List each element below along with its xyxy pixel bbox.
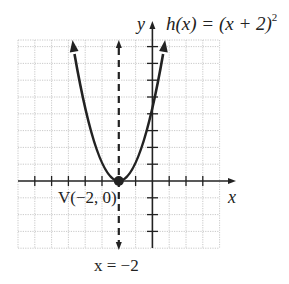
down-arrow-icon xyxy=(116,242,122,250)
vertex-label: V(−2, 0) xyxy=(58,188,117,208)
function-label: h(x) = (x + 2)2 xyxy=(166,13,277,35)
vertex-point xyxy=(114,176,124,186)
function-label-text: h(x) = (x + 2) xyxy=(166,13,272,34)
y-axis-label: y xyxy=(137,14,145,35)
y-axis-arrow-icon xyxy=(149,21,155,29)
axis-of-symmetry-label: x = −2 xyxy=(94,256,139,276)
y-axis xyxy=(147,21,158,248)
up-arrow-icon xyxy=(116,40,122,48)
function-exponent: 2 xyxy=(272,11,278,23)
graph xyxy=(0,0,289,284)
x-axis-label: x xyxy=(228,187,236,208)
x-axis-arrow-icon xyxy=(228,178,236,184)
axis-of-symmetry xyxy=(116,40,122,250)
